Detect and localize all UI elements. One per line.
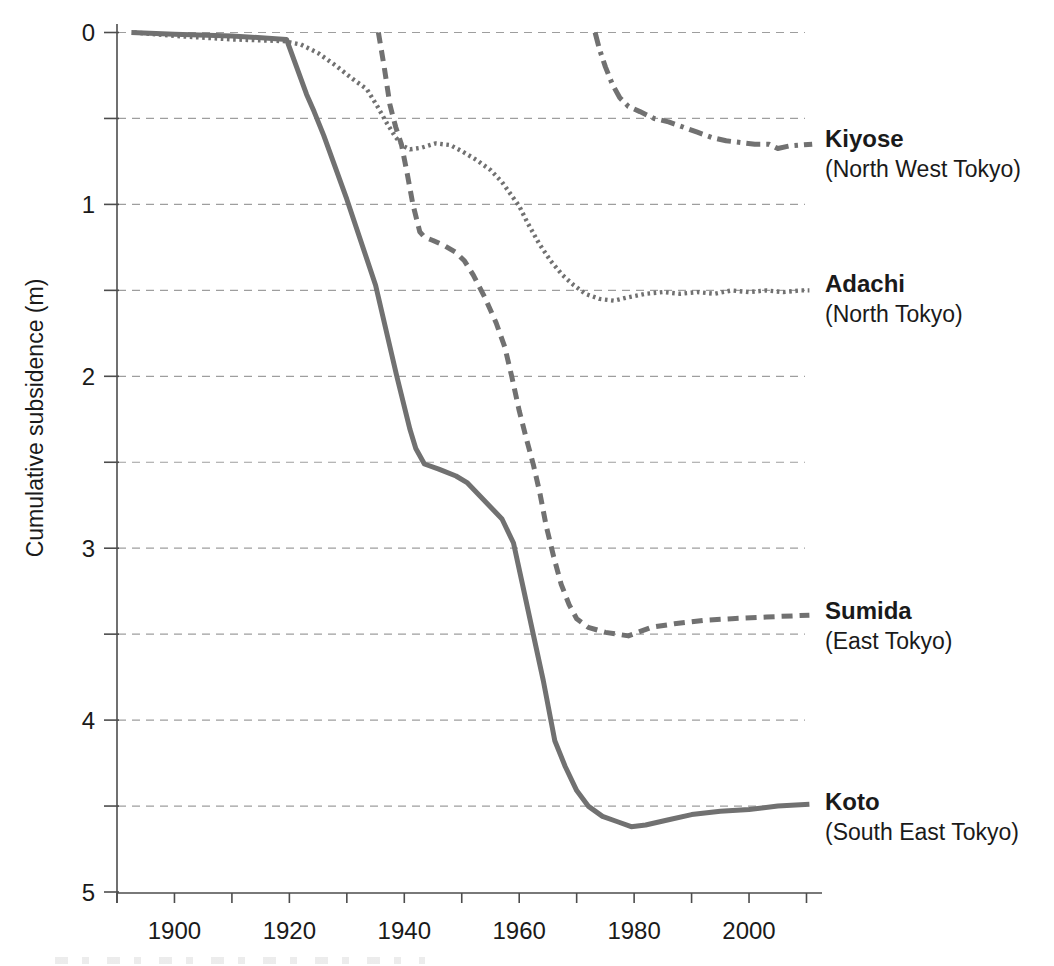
x-tick-label: 1920 [263,917,316,944]
series-line-koto [131,33,809,827]
y-tick-label: 3 [82,535,95,562]
legend-entry-kiyose: Kiyose (North West Tokyo) [825,124,1021,184]
series-line-adachi [134,33,809,301]
series-label-koto: Koto [825,787,1019,817]
subsidence-figure: 012345190019201940196019802000 Cumulativ… [0,0,1054,966]
series-region-koto: (South East Tokyo) [825,817,1019,847]
series-region-kiyose: (North West Tokyo) [825,154,1021,184]
series-region-adachi: (North Tokyo) [825,299,963,329]
y-tick-label: 5 [82,879,95,906]
y-axis-title: Cumulative subsidence (m) [22,279,49,558]
legend-entry-adachi: Adachi (North Tokyo) [825,269,963,329]
series-line-kiyose [595,33,812,149]
y-tick-label: 0 [82,19,95,46]
legend-entry-sumida: Sumida (East Tokyo) [825,596,952,656]
series-label-sumida: Sumida [825,596,952,626]
x-tick-label: 1980 [607,917,660,944]
legend-entry-koto: Koto (South East Tokyo) [825,787,1019,847]
series-label-kiyose: Kiyose [825,124,1021,154]
x-tick-label: 1960 [493,917,546,944]
x-tick-label: 1940 [378,917,431,944]
y-tick-label: 4 [82,707,95,734]
series-line-sumida [378,33,809,636]
x-tick-label: 2000 [722,917,775,944]
y-tick-label: 2 [82,363,95,390]
series-label-adachi: Adachi [825,269,963,299]
series-region-sumida: (East Tokyo) [825,626,952,656]
y-tick-label: 1 [82,191,95,218]
cropped-caption-artifact [55,957,425,964]
x-tick-label: 1900 [148,917,201,944]
